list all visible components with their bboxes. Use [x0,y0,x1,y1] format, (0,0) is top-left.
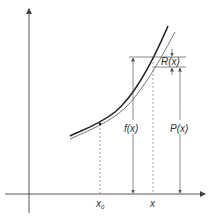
label-f: f(x) [124,123,138,134]
label-x: x [149,198,156,209]
label-x0: x0 [95,198,105,210]
tangent-point [99,123,102,126]
label-P: P(x) [170,123,188,134]
label-R: R(x) [161,56,180,67]
curve-P [70,32,175,139]
taylor-diagram: f(x) P(x) R(x) x0 x [0,0,215,221]
